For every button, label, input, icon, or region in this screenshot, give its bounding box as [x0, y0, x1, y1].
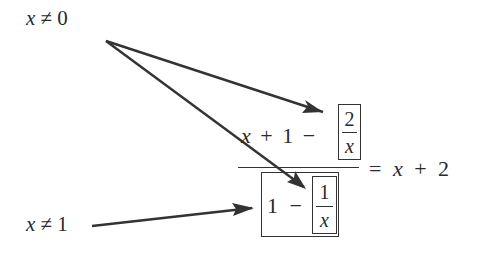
- numerator-plus: +: [260, 123, 272, 148]
- arrow-x-not-0-to-2-over-x: [106, 41, 323, 113]
- denominator-expression: 1 −: [267, 195, 302, 217]
- rhs-two: 2: [438, 156, 449, 181]
- fraction-numerator-2: 2: [339, 109, 360, 129]
- numerator-x: x: [241, 123, 251, 148]
- denominator-one: 1: [267, 193, 278, 218]
- value-zero: 0: [57, 6, 68, 30]
- not-equal-sign: ≠: [41, 6, 53, 30]
- rhs-x: x: [393, 156, 403, 181]
- right-hand-side: = x + 2: [369, 158, 449, 180]
- equals-sign: =: [369, 156, 381, 181]
- variable-x: x: [26, 212, 35, 236]
- numerator-minus: −: [303, 123, 315, 148]
- fraction-numerator-1: 1: [313, 182, 336, 202]
- value-one: 1: [57, 212, 68, 236]
- numerator-expression: x + 1 −: [241, 125, 315, 147]
- condition-x-not-zero: x ≠ 0: [26, 8, 68, 29]
- main-fraction-bar: [238, 167, 359, 168]
- condition-x-not-one: x ≠ 1: [26, 214, 68, 235]
- fraction-denominator-x: x: [313, 210, 336, 230]
- denominator-minus: −: [290, 193, 302, 218]
- boxed-denominator: 1 − 1 x: [261, 172, 339, 237]
- boxed-fraction-2-over-x: 2 x: [338, 104, 361, 160]
- fraction-bar: [342, 132, 357, 133]
- rhs-plus: +: [414, 156, 426, 181]
- fraction-bar: [316, 206, 333, 207]
- numerator-one: 1: [282, 123, 293, 148]
- variable-x: x: [26, 6, 35, 30]
- not-equal-sign: ≠: [41, 212, 53, 236]
- boxed-fraction-1-over-x: 1 x: [312, 176, 337, 234]
- arrow-x-not-1-to-denominator: [92, 203, 254, 226]
- fraction-denominator-x: x: [339, 136, 360, 156]
